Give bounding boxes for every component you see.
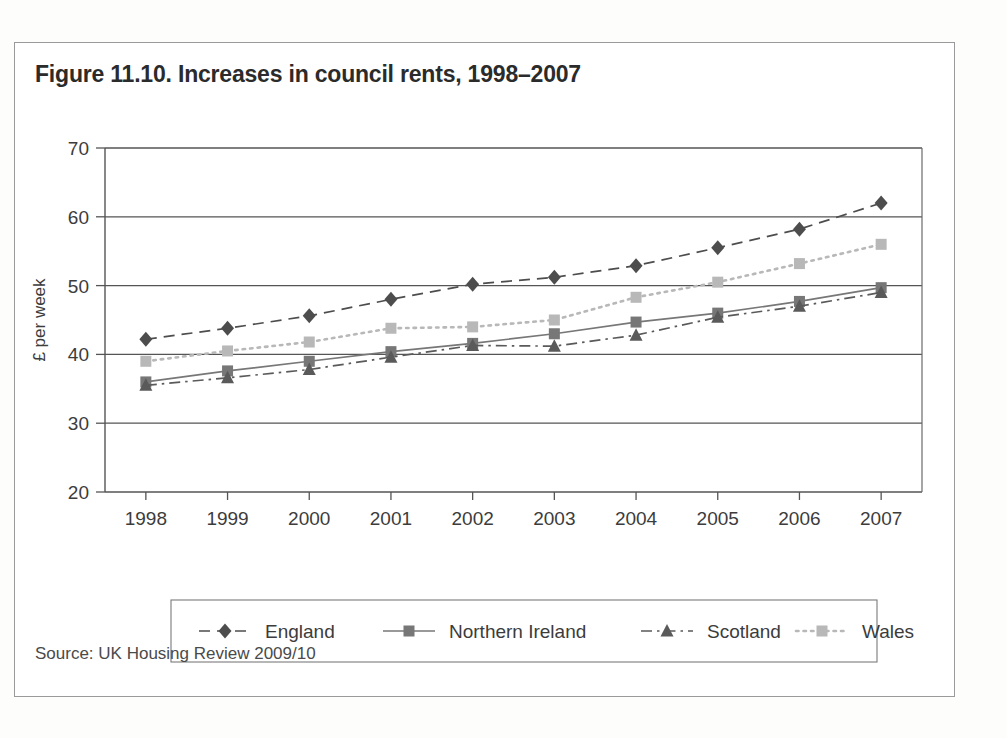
x-tick-label-2007: 2007 <box>860 508 902 529</box>
y-tick-label-60: 60 <box>68 207 89 228</box>
y-tick-label-20: 20 <box>68 482 89 503</box>
data-point-2005 <box>711 240 724 255</box>
data-point-2004 <box>630 258 643 273</box>
source-note: Source: UK Housing Review 2009/10 <box>35 644 316 664</box>
data-point-2006 <box>794 258 805 269</box>
series-line <box>146 288 881 382</box>
x-tick-label-2006: 2006 <box>778 508 820 529</box>
data-point-2004 <box>631 292 642 303</box>
data-point-2007 <box>876 239 887 250</box>
legend-label: Wales <box>862 621 914 642</box>
figure-page: Figure 11.10. Increases in council rents… <box>0 0 1007 738</box>
data-point-2003 <box>548 270 561 285</box>
legend-marker-diamond <box>219 624 232 639</box>
data-point-1999 <box>221 321 234 336</box>
legend-marker-square <box>404 626 415 637</box>
y-tick-label-30: 30 <box>68 413 89 434</box>
legend-label: England <box>265 621 335 642</box>
x-tick-label-1999: 1999 <box>206 508 248 529</box>
data-point-1998 <box>139 332 152 347</box>
data-point-2003 <box>549 328 560 339</box>
y-tick-label-70: 70 <box>68 138 89 159</box>
data-point-2002 <box>466 277 479 292</box>
legend-item-england[interactable]: England <box>199 621 335 642</box>
legend-item-northern-ireland[interactable]: Northern Ireland <box>383 621 586 642</box>
legend-label: Scotland <box>707 621 781 642</box>
x-tick-label-2005: 2005 <box>697 508 739 529</box>
series-northern-ireland <box>140 282 886 387</box>
x-tick-label-2000: 2000 <box>288 508 330 529</box>
data-point-2001 <box>384 292 397 307</box>
data-point-2000 <box>303 308 316 323</box>
data-point-1999 <box>222 345 233 356</box>
legend-item-wales[interactable]: Wales <box>796 621 914 642</box>
x-tick-label-2001: 2001 <box>370 508 412 529</box>
data-point-2003 <box>549 315 560 326</box>
data-point-2002 <box>467 321 478 332</box>
x-tick-label-2002: 2002 <box>452 508 494 529</box>
y-tick-label-50: 50 <box>68 276 89 297</box>
x-tick-label-2004: 2004 <box>615 508 658 529</box>
data-point-2001 <box>385 323 396 334</box>
x-tick-label-2003: 2003 <box>533 508 575 529</box>
y-tick-label-40: 40 <box>68 344 89 365</box>
figure-border: Figure 11.10. Increases in council rents… <box>14 42 955 697</box>
data-point-2007 <box>875 196 888 211</box>
series-line <box>146 244 881 361</box>
legend-item-scotland[interactable]: Scotland <box>641 621 781 642</box>
data-point-2006 <box>793 222 806 237</box>
series-wales <box>140 239 886 367</box>
data-point-2005 <box>712 277 723 288</box>
legend-marker-square <box>817 626 828 637</box>
y-axis-title: £ per week <box>30 278 49 362</box>
council-rents-line-chart: 203040506070£ per week199819992000200120… <box>15 43 954 696</box>
data-point-1998 <box>140 356 151 367</box>
legend-label: Northern Ireland <box>449 621 586 642</box>
x-tick-label-1998: 1998 <box>125 508 167 529</box>
data-point-2004 <box>631 317 642 328</box>
data-point-2000 <box>304 337 315 348</box>
